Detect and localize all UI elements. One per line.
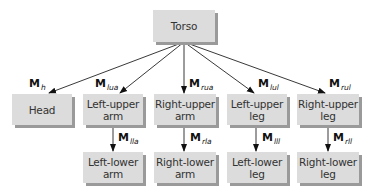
node-label: Left-upper arm — [83, 98, 143, 122]
node-label: Right-lower arm — [154, 156, 216, 180]
edge-label-lul: Mlul — [258, 77, 279, 92]
edge-label-lla: Mlla — [118, 131, 139, 146]
edge-label-rla: Mrla — [190, 131, 212, 146]
node-label: Right-upper arm — [154, 98, 216, 122]
node-label: Left-upper leg — [227, 98, 287, 122]
node-head: Head — [12, 94, 72, 125]
node-label: Left-lower leg — [227, 156, 287, 180]
edge-label-rua: Mrua — [189, 77, 213, 92]
node-right-lower-arm: Right-lower arm — [154, 152, 216, 183]
edge-label-lll: Mlll — [262, 131, 280, 146]
node-label: Head — [29, 104, 56, 116]
node-right-upper-leg: Right-upper leg — [297, 94, 359, 125]
edge-label-h: Mh — [29, 77, 46, 92]
node-label: Right-lower leg — [297, 156, 359, 180]
node-label: Left-lower arm — [83, 156, 143, 180]
node-left-lower-arm: Left-lower arm — [83, 152, 143, 183]
node-right-lower-leg: Right-lower leg — [297, 152, 359, 183]
node-left-upper-arm: Left-upper arm — [83, 94, 143, 125]
edge-label-rul: Mrul — [329, 77, 351, 92]
node-left-lower-leg: Left-lower leg — [227, 152, 287, 183]
node-left-upper-leg: Left-upper leg — [227, 94, 287, 125]
node-label: Torso — [171, 20, 197, 32]
edge-label-lua: Mlua — [95, 77, 118, 92]
node-torso: Torso — [153, 10, 215, 42]
edge-label-rll: Mrll — [333, 131, 352, 146]
node-right-upper-arm: Right-upper arm — [154, 94, 216, 125]
node-label: Right-upper leg — [297, 98, 359, 122]
